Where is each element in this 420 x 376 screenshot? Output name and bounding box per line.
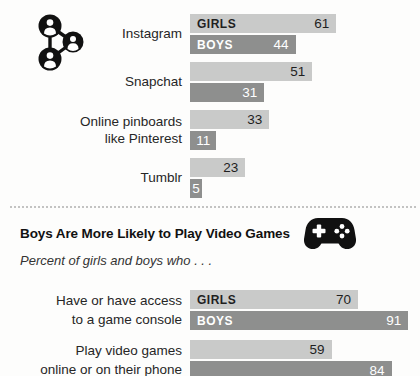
girls-bar: 23 bbox=[190, 158, 245, 177]
bar-value: 70 bbox=[336, 292, 358, 307]
boys-bar: 31 bbox=[190, 83, 264, 102]
chart-row: Online pinboardslike Pinterest3311 bbox=[0, 110, 420, 150]
bar-value: 23 bbox=[223, 160, 245, 175]
boys-bar: 84 bbox=[190, 361, 392, 376]
category-label: Tumblr bbox=[0, 158, 190, 198]
bar-value: 33 bbox=[247, 112, 269, 127]
bar-pair: 5131 bbox=[190, 62, 420, 102]
boys-bar: BOYS44 bbox=[190, 35, 296, 54]
bar-value: 5 bbox=[192, 181, 200, 196]
girls-bar: GIRLS61 bbox=[190, 14, 336, 33]
series-label: BOYS bbox=[190, 38, 233, 52]
bar-pair: GIRLS70BOYS91 bbox=[190, 290, 420, 330]
girls-bar: GIRLS70 bbox=[190, 290, 358, 309]
category-label: Play video gamesonline or on their phone bbox=[0, 340, 190, 376]
boys-bar: 5 bbox=[190, 179, 202, 198]
video-games-chart: Have or have accessto a game consoleGIRL… bbox=[0, 290, 420, 376]
category-label: Snapchat bbox=[0, 62, 190, 102]
chart-row: Tumblr235 bbox=[0, 158, 420, 198]
bar-value: 84 bbox=[370, 363, 392, 376]
category-label: Have or have accessto a game console bbox=[0, 290, 190, 330]
bar-pair: 3311 bbox=[190, 110, 420, 150]
bar-value: 59 bbox=[310, 342, 332, 357]
series-label: GIRLS bbox=[190, 293, 236, 307]
girls-bar: 59 bbox=[190, 340, 332, 359]
girls-bar: 51 bbox=[190, 62, 312, 81]
gamepad-icon bbox=[304, 216, 356, 250]
series-label: BOYS bbox=[190, 314, 233, 328]
section-subtitle: Percent of girls and boys who . . . bbox=[20, 253, 420, 268]
category-label: Online pinboardslike Pinterest bbox=[0, 110, 190, 150]
social-network-icon bbox=[33, 12, 89, 72]
category-label: Instagram bbox=[0, 14, 190, 54]
chart-row: Have or have accessto a game consoleGIRL… bbox=[0, 290, 420, 330]
infographic-page: InstagramGIRLS61BOYS44Snapchat5131Online… bbox=[0, 0, 420, 376]
section-header: Boys Are More Likely to Play Video Games bbox=[20, 216, 420, 250]
boys-bar: BOYS91 bbox=[190, 311, 408, 330]
bar-value: 51 bbox=[290, 64, 312, 79]
bar-value: 61 bbox=[314, 16, 336, 31]
series-label: GIRLS bbox=[190, 17, 236, 31]
section-title: Boys Are More Likely to Play Video Games bbox=[20, 226, 290, 241]
bar-value: 91 bbox=[386, 313, 408, 328]
boys-bar: 11 bbox=[190, 131, 216, 150]
bar-value: 11 bbox=[196, 133, 210, 148]
chart-row: Play video gamesonline or on their phone… bbox=[0, 340, 420, 376]
bar-value: 31 bbox=[242, 85, 264, 100]
girls-bar: 33 bbox=[190, 110, 269, 129]
bar-value: 44 bbox=[274, 37, 296, 52]
bar-pair: GIRLS61BOYS44 bbox=[190, 14, 420, 54]
bar-pair: 235 bbox=[190, 158, 420, 198]
bar-pair: 5984 bbox=[190, 340, 420, 376]
section-divider bbox=[10, 206, 416, 208]
